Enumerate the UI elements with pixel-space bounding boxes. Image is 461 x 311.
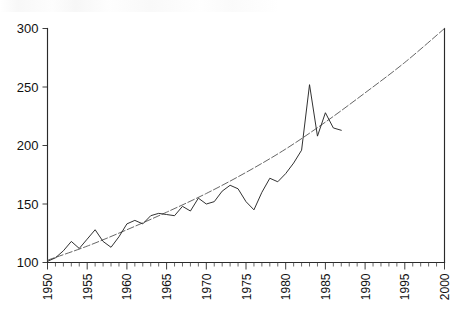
x-tick-label: 1960 [120,273,134,300]
x-axis-major-ticks [48,263,445,270]
x-tick-label: 1980 [279,273,293,300]
y-tick-label: 100 [17,255,39,270]
fitted-trend-line [48,29,445,261]
y-tick-label: 150 [17,197,39,212]
y-tick-label: 200 [17,138,39,153]
y-axis-ticks [43,29,48,263]
x-tick-label: 1965 [160,273,174,300]
x-tick-label: 1975 [240,273,254,300]
x-tick-label: 1985 [319,273,333,300]
x-tick-label: 1950 [41,273,55,300]
x-tick-label: 1990 [359,273,373,300]
y-axis-tick-labels: 100150200250300 [17,21,39,270]
observed-series-line [48,85,342,262]
x-tick-label: 1970 [200,273,214,300]
x-axis-tick-labels: 1950195519601965197019751980198519901995… [41,273,452,300]
chart-figure: 100150200250300 195019551960196519701975… [0,0,461,311]
y-tick-label: 300 [17,21,39,36]
x-tick-label: 1995 [398,273,412,300]
plot-frame [48,29,445,263]
x-tick-label: 1955 [81,273,95,300]
x-tick-label: 2000 [438,273,452,300]
y-tick-label: 250 [17,80,39,95]
line-chart: 100150200250300 195019551960196519701975… [0,0,461,311]
